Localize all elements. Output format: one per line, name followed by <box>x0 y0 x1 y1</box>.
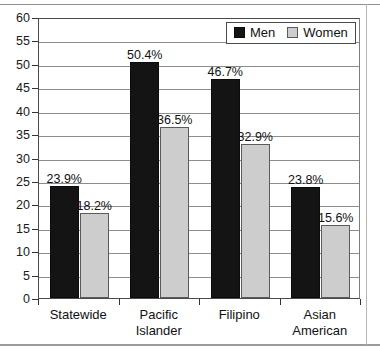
legend-item-women: Women <box>287 25 348 40</box>
bar-women <box>321 225 350 298</box>
x-axis-category-label: Filipino <box>219 307 260 323</box>
y-axis-tick-label: 0 <box>0 292 30 306</box>
y-axis-tick-label: 40 <box>0 105 30 119</box>
y-axis-tick-label: 20 <box>0 198 30 212</box>
x-axis-category-line: American <box>292 323 347 339</box>
x-axis-tick <box>280 299 281 305</box>
legend-swatch-icon <box>287 27 298 38</box>
y-axis-tick-label: 30 <box>0 152 30 166</box>
y-axis-tick-label: 55 <box>0 34 30 48</box>
bar-men <box>211 79 240 298</box>
y-axis-tick-label: 50 <box>0 58 30 72</box>
bar-men <box>291 187 320 298</box>
bar-value-label: 15.6% <box>318 211 353 225</box>
legend-swatch-icon <box>234 27 245 38</box>
y-axis-tick-label: 35 <box>0 128 30 142</box>
bar-men <box>130 62 159 298</box>
x-axis-tick <box>360 299 361 305</box>
legend-label: Women <box>303 25 348 40</box>
bar-value-label: 46.7% <box>208 65 243 79</box>
x-axis-category-line: Filipino <box>219 307 260 323</box>
y-axis-tick-label: 15 <box>0 222 30 236</box>
x-axis-category-label: AsianAmerican <box>292 307 347 339</box>
chart-legend: MenWomen <box>226 22 356 44</box>
figure-right-rule <box>366 4 367 345</box>
y-axis-tick-label: 10 <box>0 245 30 259</box>
gridline <box>39 89 359 90</box>
x-axis-tick <box>119 299 120 305</box>
gridline <box>39 160 359 161</box>
plot-area: 23.9%18.2%50.4%36.5%46.7%32.9%23.8%15.6% <box>38 18 360 299</box>
y-axis-tick-label: 45 <box>0 81 30 95</box>
y-axis-tick-label: 5 <box>0 269 30 283</box>
y-axis-tick-label: 25 <box>0 175 30 189</box>
figure-bottom-rule <box>0 344 380 346</box>
x-axis-category-line: Pacific <box>136 307 182 323</box>
x-axis-tick <box>38 299 39 305</box>
bar-value-label: 32.9% <box>238 130 273 144</box>
bar-women <box>160 127 189 298</box>
gridline <box>39 136 359 137</box>
x-axis-tick <box>199 299 200 305</box>
bar-women <box>80 213 109 298</box>
bar-men <box>50 186 79 298</box>
legend-item-men: Men <box>234 25 275 40</box>
bar-value-label: 23.8% <box>288 173 323 187</box>
x-axis-category-line: Islander <box>136 323 182 339</box>
y-axis-tick-label: 60 <box>0 11 30 25</box>
bar-chart-figure: 051015202530354045505560 23.9%18.2%50.4%… <box>0 0 380 351</box>
bar-value-label: 18.2% <box>77 199 112 213</box>
x-axis-category-line: Statewide <box>50 307 107 323</box>
gridline <box>39 113 359 114</box>
gridline <box>39 66 359 67</box>
bar-value-label: 23.9% <box>47 172 82 186</box>
bar-value-label: 36.5% <box>157 113 192 127</box>
figure-top-rule <box>0 4 380 5</box>
bar-women <box>241 144 270 298</box>
x-axis-category-label: PacificIslander <box>136 307 182 339</box>
legend-label: Men <box>250 25 275 40</box>
x-axis-category-label: Statewide <box>50 307 107 323</box>
x-axis-category-line: Asian <box>292 307 347 323</box>
bar-value-label: 50.4% <box>127 48 162 62</box>
